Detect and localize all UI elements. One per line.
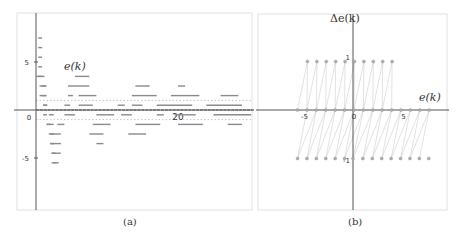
- trajectory-line: [382, 110, 401, 159]
- data-point: [371, 157, 374, 160]
- x-tick-label: 0: [352, 113, 356, 121]
- data-point: [334, 60, 337, 63]
- trajectory-line: [316, 110, 325, 159]
- trajectory-line: [335, 62, 345, 111]
- data-point: [324, 157, 327, 160]
- data-point: [372, 60, 375, 63]
- data-point: [381, 60, 384, 63]
- error-time-plot: 5-5020e(k): [0, 0, 258, 240]
- x-tick-label: 0: [27, 114, 31, 122]
- data-point: [380, 157, 383, 160]
- trajectory-line: [410, 110, 420, 159]
- phase-plane-plot: -5051-1Δe(k)e(k): [255, 0, 462, 240]
- data-point: [381, 109, 384, 112]
- data-point: [427, 157, 430, 160]
- data-point: [343, 109, 346, 112]
- trajectory-line: [410, 110, 429, 159]
- data-point: [334, 157, 337, 160]
- data-point: [418, 109, 421, 112]
- trajectory-line: [372, 110, 382, 159]
- data-point: [408, 157, 411, 160]
- data-point: [325, 60, 328, 63]
- trajectory-line: [372, 110, 391, 159]
- data-point: [315, 109, 318, 112]
- x-tick-label: 20: [172, 112, 184, 122]
- data-point: [409, 109, 412, 112]
- trajectory-line: [363, 110, 382, 159]
- trajectory-line: [363, 110, 373, 159]
- data-point: [428, 109, 431, 112]
- y-tick-label: 1: [346, 54, 350, 62]
- trajectory-line: [307, 110, 326, 159]
- data-point: [296, 109, 299, 112]
- trajectory-line: [307, 110, 316, 159]
- data-point: [306, 60, 309, 63]
- data-point: [315, 157, 318, 160]
- data-point: [362, 60, 365, 63]
- trajectory-line: [316, 110, 335, 159]
- data-point: [390, 157, 393, 160]
- chart-panel-a: 5-5020e(k) (a): [0, 0, 258, 240]
- data-point: [418, 157, 421, 160]
- x-axis-label: e(k): [419, 91, 441, 104]
- y-tick-label: -5: [22, 155, 29, 163]
- trajectory-line: [335, 110, 344, 159]
- trajectory-line: [373, 62, 383, 111]
- trajectory-line: [391, 110, 401, 159]
- data-point: [353, 60, 356, 63]
- data-point: [352, 109, 355, 112]
- data-point: [305, 157, 308, 160]
- data-point: [399, 157, 402, 160]
- y-axis-label: Δe(k): [330, 12, 360, 25]
- trajectory-line: [382, 110, 392, 159]
- data-point: [390, 109, 393, 112]
- trajectory-line: [326, 62, 336, 111]
- chart-panel-b: -5051-1Δe(k)e(k) (b): [255, 0, 462, 240]
- y-tick-label: -1: [343, 157, 350, 165]
- trajectory-line: [382, 62, 392, 111]
- trajectory-line: [419, 110, 429, 159]
- trajectory-line: [316, 62, 326, 111]
- data-point: [391, 60, 394, 63]
- x-tick-label: 5: [401, 113, 405, 121]
- data-point: [371, 109, 374, 112]
- caption-a: (a): [123, 216, 137, 227]
- data-point: [324, 109, 327, 112]
- data-point: [362, 109, 365, 112]
- data-point: [361, 157, 364, 160]
- trajectory-line: [326, 110, 335, 159]
- data-point: [315, 60, 318, 63]
- plot-frame: [17, 13, 252, 210]
- caption-b: (b): [348, 216, 362, 227]
- trajectory-line: [354, 62, 364, 111]
- trajectory-line: [298, 62, 308, 111]
- trajectory-line: [326, 110, 345, 159]
- data-point: [296, 157, 299, 160]
- trajectory-line: [307, 62, 317, 111]
- y-tick-label: 5: [25, 59, 29, 67]
- data-point: [400, 109, 403, 112]
- trajectory-line: [363, 62, 373, 111]
- series-label: e(k): [64, 60, 86, 73]
- data-point: [352, 157, 355, 160]
- data-point: [305, 109, 308, 112]
- data-point: [334, 109, 337, 112]
- x-tick-label: -5: [301, 113, 308, 121]
